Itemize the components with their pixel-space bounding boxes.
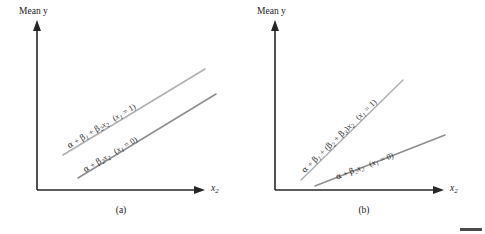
scan-artifact-mark bbox=[460, 228, 482, 231]
x-axis-label-b: x2 bbox=[450, 183, 458, 195]
y-axis-arrowhead-a bbox=[33, 20, 41, 31]
x-axis-arrowhead-a bbox=[194, 186, 205, 194]
panel-a: Mean y x2 α + β1 + β2x2(x1 = 1) α + β2x2… bbox=[0, 0, 242, 234]
panel-b: Mean y x2 α + β1 + (β2 + β3)x2(x1 = 1) α… bbox=[243, 0, 485, 234]
figure-container: Mean y x2 α + β1 + β2x2(x1 = 1) α + β2x2… bbox=[0, 0, 485, 234]
x-axis-label-a: x2 bbox=[211, 183, 219, 195]
panel-b-caption: (b) bbox=[243, 205, 485, 215]
y-axis-label-a: Mean y bbox=[19, 6, 48, 16]
y-axis-arrowhead-b bbox=[271, 20, 279, 31]
y-axis-label-b: Mean y bbox=[257, 6, 286, 16]
x-axis-label-sub-b: 2 bbox=[454, 187, 458, 195]
x-axis-label-sub-a: 2 bbox=[215, 187, 219, 195]
x-subscript: 2 bbox=[360, 165, 366, 173]
x-axis-arrowhead-b bbox=[433, 186, 444, 194]
y-axis-label-text-a: Mean y bbox=[19, 6, 48, 16]
y-axis-label-text-b: Mean y bbox=[257, 6, 286, 16]
panel-a-caption: (a) bbox=[0, 205, 242, 215]
